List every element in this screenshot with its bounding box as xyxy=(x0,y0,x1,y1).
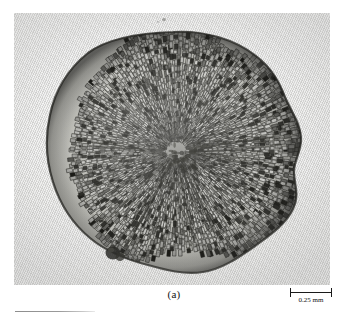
film-artifact-speck xyxy=(162,18,166,21)
panel-vignette xyxy=(14,13,330,285)
scale-bar-rule xyxy=(290,292,332,293)
micrograph-panel xyxy=(14,13,330,285)
figure-root: (a) 0.25 mm xyxy=(0,0,348,322)
footnote-separator-rule xyxy=(15,311,95,312)
scale-bar: 0.25 mm xyxy=(288,288,334,308)
scale-bar-label: 0.25 mm xyxy=(288,296,334,304)
film-artifact-speck-small xyxy=(157,21,159,23)
